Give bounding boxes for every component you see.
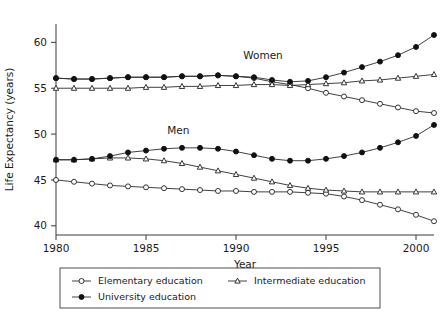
data-point-marker	[306, 158, 311, 163]
data-point-marker	[414, 44, 419, 49]
legend-item-label: Intermediate education	[254, 275, 365, 286]
data-point-marker	[342, 70, 347, 75]
data-point-marker	[324, 156, 329, 161]
data-point-marker	[288, 79, 293, 84]
data-point-marker	[306, 78, 311, 83]
data-point-marker	[198, 188, 203, 193]
y-axis-title: Life Expectancy (years)	[3, 68, 15, 192]
data-point-marker	[180, 74, 185, 79]
data-point-marker	[252, 153, 257, 158]
data-point-marker	[432, 33, 437, 38]
data-point-marker	[126, 150, 131, 155]
data-point-marker	[342, 94, 347, 99]
group-label-men: Men	[167, 124, 189, 136]
data-point-marker	[342, 154, 347, 159]
data-point-marker	[108, 154, 113, 159]
data-point-marker	[288, 158, 293, 163]
annotations: WomenMen	[167, 49, 282, 136]
y-tick-label: 50	[34, 128, 47, 140]
legend-item-label: Elementary education	[98, 275, 203, 286]
data-point-marker	[414, 109, 419, 114]
x-tick-label: 1980	[43, 242, 70, 254]
data-point-marker	[90, 77, 95, 82]
data-point-marker	[324, 90, 329, 95]
data-point-marker	[360, 150, 365, 155]
series-path	[56, 75, 434, 113]
line-chart: 404550556019801985199019952000YearLife E…	[0, 0, 443, 319]
data-point-marker	[252, 189, 257, 194]
chart-figure: 404550556019801985199019952000YearLife E…	[0, 0, 443, 319]
data-point-marker	[180, 187, 185, 192]
data-point-marker	[72, 179, 77, 184]
y-tick-label: 40	[34, 219, 47, 231]
data-point-marker	[162, 146, 167, 151]
data-point-marker	[360, 98, 365, 103]
data-point-marker	[306, 190, 311, 195]
data-point-marker	[79, 295, 84, 300]
data-point-marker	[216, 188, 221, 193]
data-point-marker	[324, 75, 329, 80]
data-point-marker	[252, 75, 257, 80]
data-point-marker	[342, 194, 347, 199]
data-point-marker	[432, 219, 437, 224]
data-point-marker	[144, 75, 149, 80]
data-point-marker	[396, 140, 401, 145]
data-point-marker	[234, 149, 239, 154]
data-point-marker	[378, 59, 383, 64]
data-point-marker	[198, 145, 203, 150]
data-point-marker	[54, 177, 59, 182]
x-tick-label: 2000	[403, 242, 430, 254]
data-point-marker	[378, 202, 383, 207]
data-point-marker	[234, 188, 239, 193]
data-point-marker	[54, 76, 59, 81]
data-point-marker	[72, 77, 77, 82]
data-point-marker	[396, 207, 401, 212]
data-point-marker	[360, 65, 365, 70]
data-point-marker	[162, 186, 167, 191]
series-path	[56, 158, 434, 192]
series-men-elementary-education	[54, 177, 437, 223]
series-layer	[53, 33, 436, 224]
data-point-marker	[126, 184, 131, 189]
data-point-marker	[432, 122, 437, 127]
data-point-marker	[431, 72, 436, 77]
data-point-marker	[79, 279, 84, 284]
data-point-marker	[360, 198, 365, 203]
data-point-marker	[288, 189, 293, 194]
data-point-marker	[144, 185, 149, 190]
x-tick-label: 1985	[133, 242, 160, 254]
data-point-marker	[180, 145, 185, 150]
y-tick-label: 60	[34, 36, 47, 48]
x-tick-label: 1990	[223, 242, 250, 254]
data-point-marker	[414, 212, 419, 217]
data-point-marker	[216, 146, 221, 151]
data-point-marker	[90, 156, 95, 161]
data-point-marker	[198, 74, 203, 79]
data-point-marker	[396, 105, 401, 110]
y-tick-label: 55	[34, 82, 47, 94]
data-point-marker	[108, 76, 113, 81]
data-point-marker	[126, 75, 131, 80]
series-men-university-education	[54, 122, 437, 163]
data-point-marker	[54, 157, 59, 162]
data-point-marker	[378, 145, 383, 150]
data-point-marker	[270, 77, 275, 82]
data-point-marker	[90, 181, 95, 186]
data-point-marker	[270, 156, 275, 161]
data-point-marker	[270, 189, 275, 194]
data-point-marker	[162, 75, 167, 80]
data-point-marker	[396, 53, 401, 58]
data-point-marker	[144, 148, 149, 153]
data-point-marker	[234, 74, 239, 79]
data-point-marker	[108, 183, 113, 188]
data-point-marker	[72, 157, 77, 162]
group-label-women: Women	[243, 49, 283, 61]
y-tick-label: 45	[34, 174, 47, 186]
data-point-marker	[378, 101, 383, 106]
chart-legend: Elementary educationIntermediate educati…	[60, 268, 380, 308]
data-point-marker	[432, 110, 437, 115]
data-point-marker	[414, 133, 419, 138]
legend-item-label: University education	[98, 291, 196, 302]
x-tick-label: 1995	[313, 242, 340, 254]
data-point-marker	[216, 73, 221, 78]
